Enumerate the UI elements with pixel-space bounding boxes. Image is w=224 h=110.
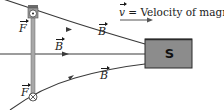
field-bottom-label: B: [100, 70, 108, 81]
current-dot-icon: [32, 13, 34, 15]
velocity-arrowhead-icon: [147, 18, 153, 23]
field-top-label: B: [98, 26, 106, 37]
field-arrow-top-icon: [66, 27, 72, 32]
field-arrow-middle-icon: [62, 52, 69, 57]
magnet-pole-label: S: [147, 46, 192, 61]
force-bottom-label: F: [21, 87, 29, 98]
loop-wire: [31, 14, 35, 94]
velocity-label: v = Velocity of magnet: [119, 6, 224, 18]
field-line-bottom: [10, 64, 145, 110]
field-middle-label: B: [55, 41, 63, 52]
force-top-label: F: [19, 23, 27, 34]
